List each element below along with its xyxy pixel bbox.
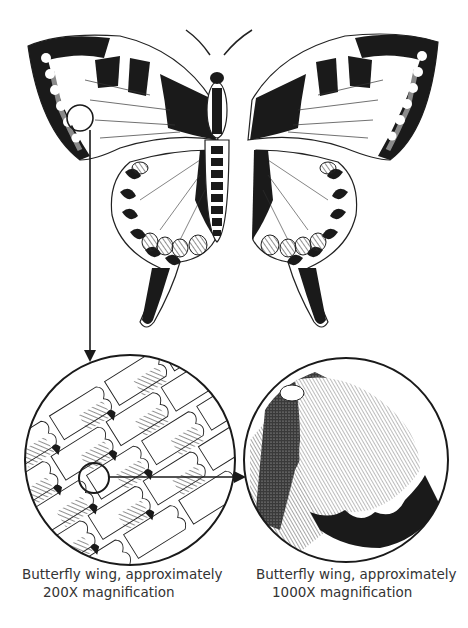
- butterfly-diagram: [0, 0, 468, 628]
- left-forewing: [28, 35, 218, 160]
- caption-200x: Butterfly wing, approximately 200X magni…: [22, 565, 223, 601]
- caption-200x-line2: 200X magnification: [22, 583, 223, 601]
- right-hindwing: [252, 150, 357, 327]
- pointer-arrow-down: [84, 130, 96, 362]
- small-scale-tip: [280, 385, 304, 401]
- caption-1000x: Butterfly wing, approximately 1000X magn…: [256, 565, 457, 601]
- caption-1000x-line1: Butterfly wing, approximately: [256, 565, 457, 583]
- left-antenna: [186, 30, 210, 55]
- caption-1000x-line2: 1000X magnification: [256, 583, 457, 601]
- caption-200x-line1: Butterfly wing, approximately: [22, 565, 223, 583]
- right-forewing: [248, 34, 438, 160]
- magnification-1000x: [240, 355, 455, 565]
- left-hindwing: [111, 150, 216, 327]
- right-antenna: [224, 30, 252, 55]
